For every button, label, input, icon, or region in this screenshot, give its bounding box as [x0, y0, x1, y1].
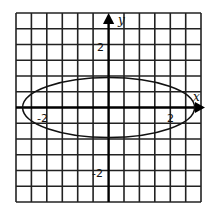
- y-axis-arrow-icon: [103, 13, 114, 24]
- x-tick-label-pos2: 2: [167, 112, 174, 125]
- ellipse-graph: y x -2 2 2 -2: [0, 0, 212, 207]
- y-tick-label-pos2: 2: [97, 41, 104, 54]
- x-tick-label-neg2: -2: [37, 112, 48, 125]
- y-tick-label-neg2: -2: [92, 167, 103, 180]
- y-axis-label: y: [117, 13, 125, 27]
- x-axis-label: x: [193, 90, 200, 104]
